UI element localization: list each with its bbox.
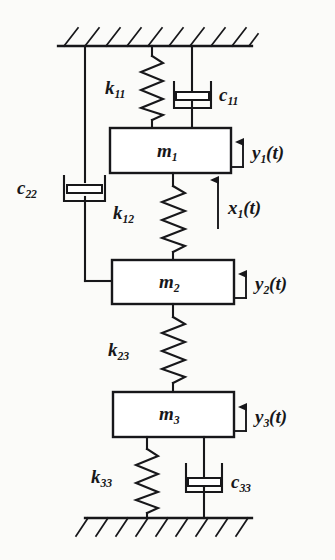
label-y1: y1(t) [252, 143, 284, 162]
figure-canvas: k11 c11 c22 k12 k23 k33 c33 m1 m2 m3 y1(… [0, 0, 335, 560]
displacement-arrow-y3 [234, 407, 246, 431]
spring-k11 [141, 46, 163, 128]
label-c11: c11 [219, 85, 238, 104]
displacement-arrow-y2 [234, 274, 246, 298]
fixed-ground [76, 518, 252, 536]
label-y3: y3(t) [255, 407, 287, 426]
label-k11: k11 [105, 78, 125, 97]
label-k33: k33 [91, 467, 112, 486]
label-m2: m2 [159, 272, 179, 291]
label-m1: m1 [157, 141, 177, 160]
spring-k12 [162, 173, 185, 260]
spring-k23 [162, 304, 185, 392]
displacement-arrow-y1 [231, 142, 243, 167]
label-x1: x1(t) [228, 198, 261, 217]
label-m3: m3 [159, 404, 179, 423]
label-k23: k23 [108, 340, 129, 359]
label-y2: y2(t) [255, 274, 287, 293]
label-c33: c33 [231, 472, 251, 491]
spring-k33 [136, 437, 158, 518]
label-c22: c22 [17, 178, 37, 197]
fixed-ceiling [58, 28, 258, 46]
label-k12: k12 [113, 203, 134, 222]
